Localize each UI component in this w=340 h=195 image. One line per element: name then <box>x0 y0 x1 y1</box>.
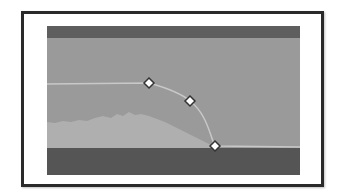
waveform-area <box>47 112 219 148</box>
envelope-editor-panel[interactable] <box>47 26 300 175</box>
control-point-1-diamond-icon[interactable] <box>144 78 154 88</box>
control-point-3-diamond-icon[interactable] <box>210 141 220 151</box>
curve-canvas[interactable] <box>47 26 300 175</box>
